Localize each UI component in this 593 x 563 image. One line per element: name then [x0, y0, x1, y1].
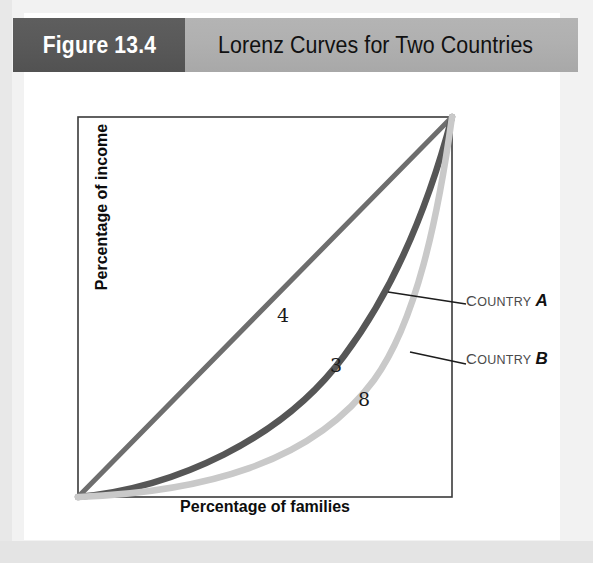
- annotation-b-word: OUNTRY: [477, 353, 531, 367]
- annotation-a-word: OUNTRY: [477, 295, 531, 309]
- lorenz-chart: Percentage of income Percentage of famil…: [24, 80, 560, 540]
- annotation-country-b: COUNTRYB: [466, 350, 548, 367]
- x-axis-title: Percentage of families: [78, 498, 452, 516]
- page-bottom-band: [0, 541, 593, 563]
- annotation-a-ident: A: [536, 291, 549, 310]
- annotation-b-prefix: C: [466, 350, 477, 367]
- annotation-b-ident: B: [536, 349, 549, 368]
- y-axis-title: Percentage of income: [93, 77, 111, 337]
- annotation-country-a: COUNTRYA: [466, 292, 548, 309]
- annotation-a-prefix: C: [466, 292, 477, 309]
- curve-label-country-a: 3: [330, 356, 342, 375]
- curve-label-country-b: 8: [358, 390, 370, 409]
- figure-page: Figure 13.4 Lorenz Curves for Two Countr…: [0, 0, 593, 563]
- curve-label-equality: 4: [277, 306, 289, 325]
- figure-number-badge: Figure 13.4: [13, 18, 185, 72]
- figure-title-text: Lorenz Curves for Two Countries: [218, 18, 533, 72]
- figure-number-label: Figure 13.4: [42, 31, 155, 59]
- figure-header: Figure 13.4 Lorenz Curves for Two Countr…: [13, 18, 578, 72]
